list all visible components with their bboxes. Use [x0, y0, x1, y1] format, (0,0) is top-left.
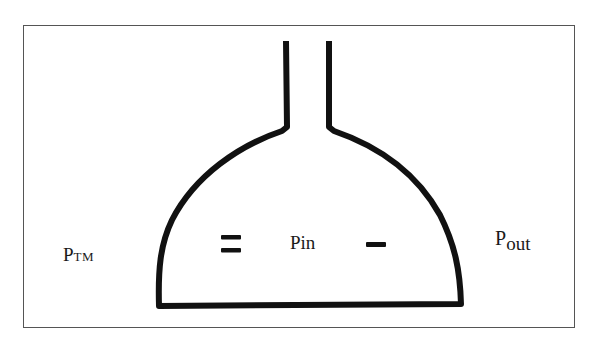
label-p-tm: PTM — [63, 244, 94, 266]
diagram-canvas: PTM Pin Pout — [0, 0, 593, 341]
equals-sign — [221, 235, 241, 253]
vessel-outline — [159, 41, 461, 306]
ptm-sub: TM — [74, 249, 95, 264]
pout-sub: out — [506, 233, 530, 254]
vessel-figure — [0, 0, 593, 341]
pout-main: P — [495, 227, 506, 249]
minus-sign — [366, 242, 386, 247]
label-p-in: Pin — [290, 232, 315, 254]
label-p-out: Pout — [495, 227, 530, 255]
ptm-main: P — [63, 244, 74, 265]
